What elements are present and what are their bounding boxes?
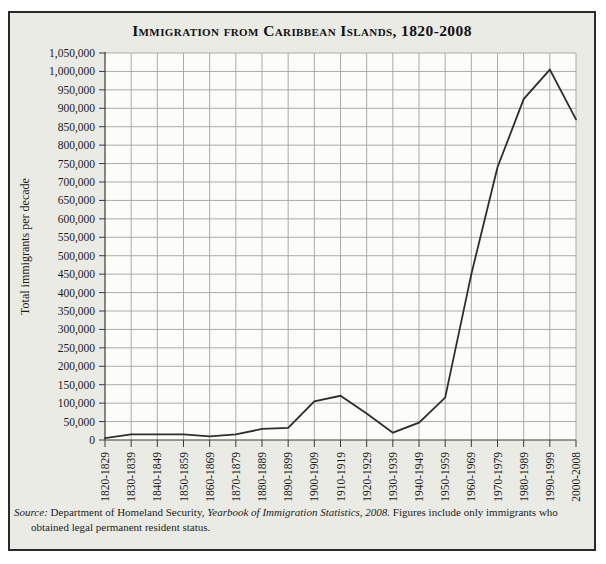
source-label: Source: (14, 506, 48, 518)
source-note: Source: Department of Homeland Security,… (14, 505, 587, 535)
figure-frame: Immigration from Caribbean Islands, 1820… (8, 11, 596, 551)
figure-title: Immigration from Caribbean Islands, 1820… (10, 22, 594, 40)
source-text-1: Department of Homeland Security, (48, 506, 207, 518)
source-publication-title: Yearbook of Immigration Statistics, 2008… (207, 506, 390, 518)
page: g Immigration from Caribbean Islands, 18… (0, 0, 606, 564)
